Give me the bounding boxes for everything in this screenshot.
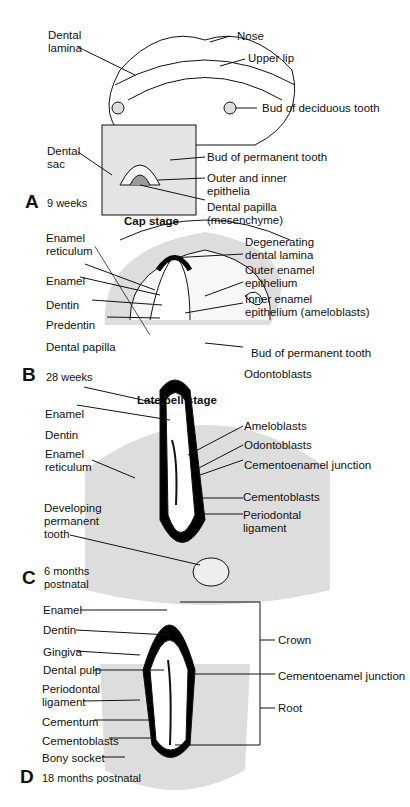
label-a-dental-papilla: Dental papilla (mesenchyme) bbox=[207, 201, 283, 227]
label-d-gingiva: Gingiva bbox=[43, 646, 82, 659]
label-b-inner-enamel-epithelium: Inner enamel epithelium (ameloblasts) bbox=[245, 293, 370, 319]
label-c-odontoblasts: Odontoblasts bbox=[244, 439, 312, 452]
panel-c-age: 6 months postnatal bbox=[44, 565, 89, 591]
label-d-dentin: Dentin bbox=[43, 624, 76, 637]
label-b-predentin: Predentin bbox=[46, 319, 95, 332]
label-d-enamel: Enamel bbox=[43, 604, 82, 617]
label-b-enamel-reticulum: Enamel reticulum bbox=[46, 232, 93, 258]
label-b-dental-papilla: Dental papilla bbox=[46, 341, 116, 354]
panel-a-stage: Cap stage bbox=[124, 215, 179, 227]
label-a-dental-lamina: Dental lamina bbox=[48, 29, 82, 55]
label-c-periodontal-ligament: Periodontal ligament bbox=[243, 509, 301, 535]
label-a-bud-permanent: Bud of permanent tooth bbox=[207, 151, 327, 164]
label-d-cementum: Cementum bbox=[42, 716, 98, 729]
label-b-degenerating-lamina: Degenerating dental lamina bbox=[245, 236, 314, 262]
panel-a-age: 9 weeks bbox=[47, 197, 87, 210]
panel-b-age: 28 weeks bbox=[46, 371, 92, 384]
panel-letter-c: C bbox=[22, 567, 36, 589]
label-c-dentin: Dentin bbox=[45, 429, 78, 442]
label-d-cementoblasts: Cementoblasts bbox=[42, 735, 119, 748]
label-c-enamel-reticulum: Enamel reticulum bbox=[45, 448, 92, 474]
label-c-cementoenamel-junction: Cementoenamel junction bbox=[244, 459, 371, 472]
label-d-cementoenamel-junction: Cementoenamel junction bbox=[278, 670, 405, 683]
label-d-dental-pulp: Dental pulp bbox=[43, 664, 101, 677]
panel-letter-a: A bbox=[25, 191, 39, 213]
panel-d-age: 18 months postnatal bbox=[42, 772, 141, 785]
label-c-enamel: Enamel bbox=[45, 408, 84, 421]
label-c-cementoblasts: Cementoblasts bbox=[243, 491, 320, 504]
label-c-ameloblasts: Ameloblasts bbox=[244, 420, 307, 433]
label-c-developing-permanent: Developing permanent tooth bbox=[44, 502, 102, 541]
label-b-bud-permanent: Bud of permanent tooth bbox=[251, 347, 371, 360]
label-d-bony-socket: Bony socket bbox=[42, 752, 105, 765]
panel-b-stage: Late bell stage bbox=[137, 394, 217, 406]
label-d-crown: Crown bbox=[278, 634, 311, 647]
label-b-enamel: Enamel bbox=[46, 275, 85, 288]
label-a-bud-deciduous: Bud of deciduous tooth bbox=[262, 102, 380, 115]
label-b-outer-enamel-epithelium: Outer enamel epithelium bbox=[245, 264, 315, 290]
label-b-dentin: Dentin bbox=[46, 299, 79, 312]
label-a-dental-sac: Dental sac bbox=[47, 145, 80, 171]
panel-letter-d: D bbox=[20, 766, 34, 788]
panel-letter-b: B bbox=[22, 364, 36, 386]
label-a-upper-lip: Upper lip bbox=[248, 52, 294, 65]
label-a-nose: Nose bbox=[237, 30, 264, 43]
label-d-root: Root bbox=[278, 702, 302, 715]
label-d-periodontal-ligament: Periodontal ligament bbox=[42, 683, 100, 709]
label-b-odontoblasts: Odontoblasts bbox=[244, 368, 312, 381]
label-a-outer-inner-epithelia: Outer and inner epithelia bbox=[207, 172, 287, 198]
